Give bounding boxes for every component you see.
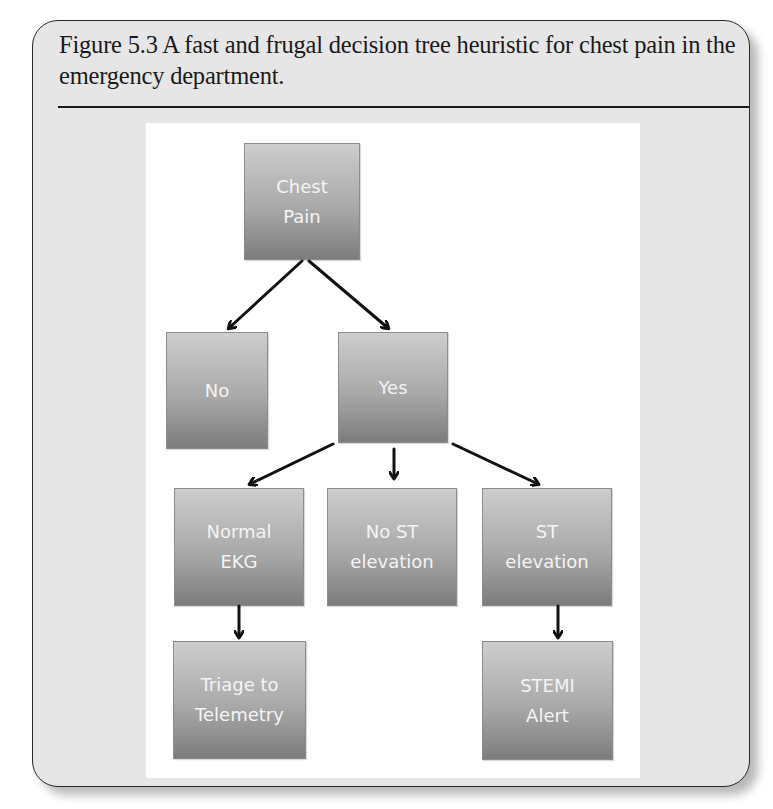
figure-caption: Figure 5.3 A fast and frugal decision tr…	[59, 29, 739, 91]
node-chest-pain: Chest Pain	[244, 143, 360, 260]
node-label: No ST elevation	[350, 517, 433, 577]
node-label: STEMI Alert	[520, 671, 575, 731]
node-label: Chest Pain	[276, 172, 328, 232]
node-no-st-elevation: No ST elevation	[327, 488, 457, 606]
node-label: ST elevation	[505, 517, 588, 577]
node-label: No	[205, 376, 229, 406]
node-label: Normal EKG	[206, 517, 271, 577]
node-st-elevation: ST elevation	[482, 488, 612, 606]
node-yes: Yes	[338, 332, 448, 443]
node-no: No	[166, 332, 268, 449]
node-label: Yes	[378, 373, 407, 403]
node-stemi-alert: STEMI Alert	[482, 641, 613, 760]
node-triage-to-telemetry: Triage to Telemetry	[173, 641, 306, 759]
caption-divider	[58, 106, 749, 108]
node-label: Triage to Telemetry	[195, 670, 284, 730]
node-normal-ekg: Normal EKG	[174, 488, 304, 606]
